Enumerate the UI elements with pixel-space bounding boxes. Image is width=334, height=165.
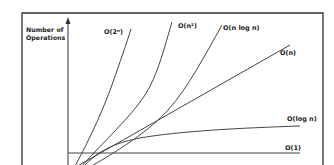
chart-frame [22,13,323,165]
y-axis-label-line1: Number of [26,26,64,33]
label-o-log-n: O(log n) [287,115,317,123]
y-axis-label-line2: Operations [26,34,65,42]
label-o-n-squared: O(n²) [178,22,197,30]
label-o-2-n: O(2ⁿ) [104,28,123,36]
big-o-complexity-chart: Number of Operations O(1) O(log n) O(n) … [0,0,334,165]
y-axis-arrow-icon [66,17,71,24]
curve-o-n [74,45,290,165]
label-o-n: O(n) [280,49,296,57]
label-o-1: O(1) [285,144,301,152]
label-o-n-log-n: O(n log n) [223,24,260,32]
